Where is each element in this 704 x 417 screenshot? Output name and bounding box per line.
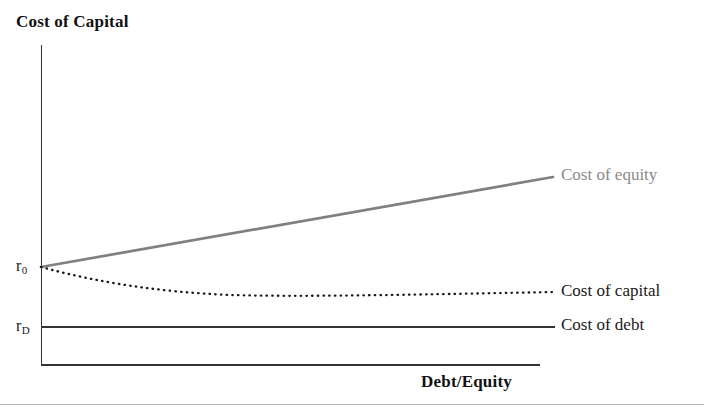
cost-of-capital-figure: Cost of Capital r0 rD Cost of equity Cos… (0, 0, 704, 417)
series-label-cost-of-equity: Cost of equity (561, 166, 657, 183)
y-tick-label-r0-subscript: 0 (22, 264, 28, 276)
y-tick-label-rd: rD (16, 318, 29, 334)
page-separator-rule (0, 404, 704, 405)
series-label-cost-of-debt: Cost of debt (561, 316, 644, 333)
cost-of-equity-line (41, 177, 553, 267)
y-tick-label-rd-subscript: D (22, 324, 30, 336)
y-tick-label-r0: r0 (16, 258, 27, 274)
plot-area (0, 0, 704, 417)
x-axis-title: Debt/Equity (421, 372, 512, 392)
y-axis-title: Cost of Capital (16, 12, 129, 32)
y-tick-label-rd-base: r (16, 317, 21, 334)
series-label-cost-of-capital: Cost of capital (561, 282, 660, 299)
y-tick-label-r0-base: r (16, 257, 21, 274)
cost-of-capital-curve (41, 267, 555, 296)
